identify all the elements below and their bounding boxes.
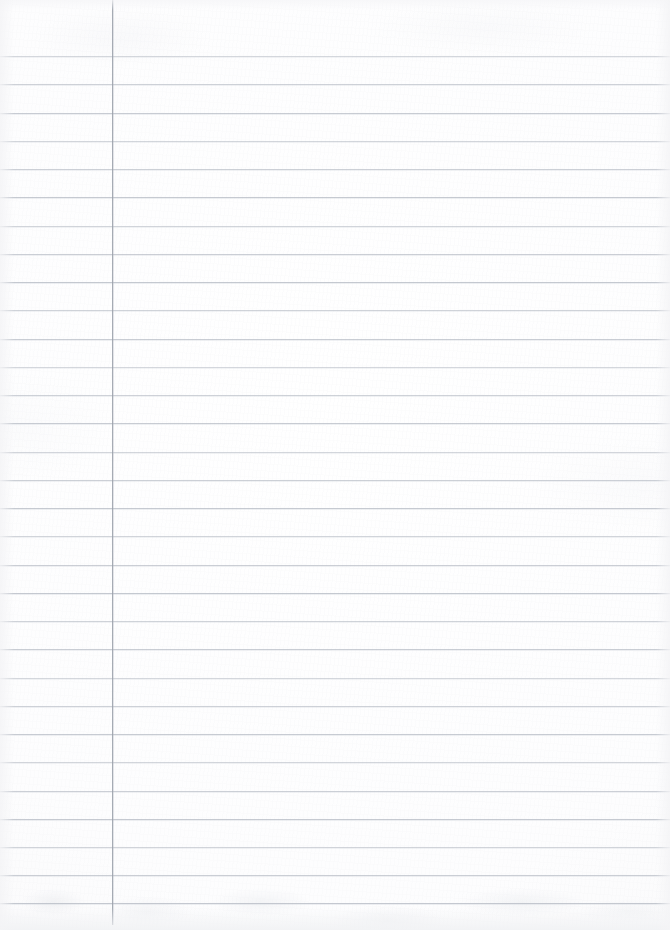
page-sheet <box>0 0 670 930</box>
writing-area[interactable] <box>112 0 670 925</box>
